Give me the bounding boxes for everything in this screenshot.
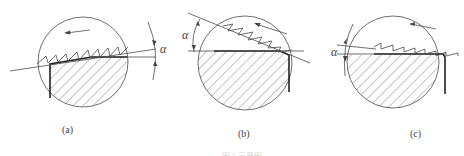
direction-arrow-c bbox=[409, 22, 436, 29]
panel-label-c: (c) bbox=[410, 128, 421, 140]
direction-arrow-b bbox=[254, 23, 287, 34]
workpiece-hatch-b bbox=[190, 51, 289, 112]
panel-b: α (b) bbox=[182, 13, 310, 140]
angle-arc-a bbox=[148, 22, 156, 80]
workpiece-hatch-c bbox=[345, 55, 445, 112]
panel-a: α (a) bbox=[10, 17, 167, 136]
alpha-label-a: α bbox=[160, 42, 167, 56]
panel-c: α (c) bbox=[331, 16, 458, 140]
figure-canvas: α (a) α (b) bbox=[0, 0, 464, 156]
panel-label-b: (b) bbox=[238, 128, 250, 140]
cutting-line-c bbox=[337, 45, 376, 49]
direction-arrow-a bbox=[64, 30, 90, 35]
alpha-label-b: α bbox=[182, 28, 189, 42]
figure-caption: 图 1 示意图 bbox=[222, 151, 262, 156]
alpha-label-c: α bbox=[331, 45, 338, 59]
teeth-b bbox=[223, 24, 292, 52]
panel-label-a: (a) bbox=[62, 124, 73, 136]
